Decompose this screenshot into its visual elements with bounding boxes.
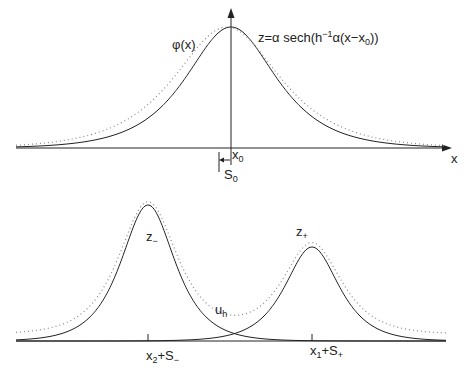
- z-minus-curve: [16, 205, 446, 341]
- z-plus-label: z+: [296, 225, 308, 241]
- s0-label: S0: [224, 168, 238, 184]
- phi-profile-curve: [16, 27, 444, 146]
- phi-label: φ(x): [172, 38, 196, 51]
- z-minus-label: z−: [146, 230, 158, 246]
- x0-label: x0: [232, 148, 244, 164]
- z-plus-curve: [16, 247, 446, 341]
- diagram-canvas: [0, 0, 468, 377]
- uh-label: uh: [215, 303, 227, 319]
- bottom-panel: [16, 202, 446, 341]
- diagram: φ(x) z=α sech(h−1α(x−x0)) x0 S0 x z− z+ …: [0, 0, 468, 377]
- left-tick-label: x2+S−: [146, 349, 179, 365]
- soliton-profile-curve: [16, 27, 444, 147]
- uh-curve: [16, 202, 446, 333]
- x-axis-label: x: [451, 152, 458, 165]
- formula-label: z=α sech(h−1α(x−x0)): [258, 30, 379, 47]
- right-tick-label: x1+S+: [310, 344, 343, 360]
- vertical-axis-arrow-icon: [228, 8, 235, 18]
- s0-arrow-icon: [219, 158, 224, 163]
